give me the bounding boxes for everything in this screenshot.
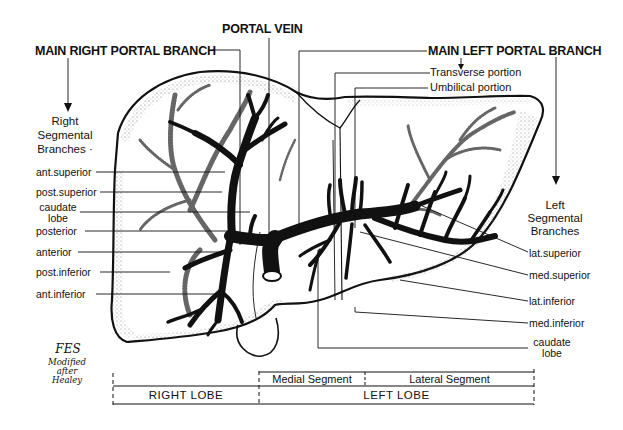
right-branch-ant-superior: ant.superior [36,167,91,178]
left-branch-lat-superior: lat.superior [529,248,581,259]
left-branch-med-superior: med.superior [529,270,590,281]
left-lobe-label: LEFT LOBE [259,390,534,402]
right-segmental-branches-heading: Right Segmental Branches · [30,114,100,156]
arrow-down-icon [552,176,560,185]
medial-segment-label: Medial Segment [259,374,365,385]
left-branch-caudate-lobe: caudate lobe [529,337,575,359]
main-right-portal-branch-label: MAIN RIGHT PORTAL BRANCH [35,45,216,58]
right-branch-post-superior: post.superior [36,187,97,198]
liver-outline [112,71,543,356]
transverse-portion-label: Transverse portion [430,67,521,78]
right-lobe-label: RIGHT LOBE [113,390,259,402]
left-segmental-branches-heading: Left Segmental Branches [523,199,587,238]
artist-credit: Modified after Healey [42,358,92,385]
right-branch-caudate-lobe: caudate lobe [36,202,80,224]
right-branch-posterior: posterior [36,226,77,237]
right-branch-ant-inferior: ant.inferior [36,289,86,300]
artist-initials: FES [48,343,88,355]
lateral-segment-label: Lateral Segment [365,374,534,385]
right-branch-anterior: anterior [36,247,72,258]
portal-vein-label: PORTAL VEIN [222,23,303,36]
right-branch-post-inferior: post.inferior [36,267,91,278]
portal-vein-liver-diagram: PORTAL VEIN MAIN RIGHT PORTAL BRANCH MAI… [0,0,623,430]
umbilical-portion-label: Umbilical portion [430,82,511,93]
main-left-portal-branch-label: MAIN LEFT PORTAL BRANCH [428,45,601,58]
left-branch-med-inferior: med.inferior [529,318,584,329]
left-branch-lat-inferior: lat.inferior [529,296,575,307]
arrow-down-icon [64,103,72,112]
